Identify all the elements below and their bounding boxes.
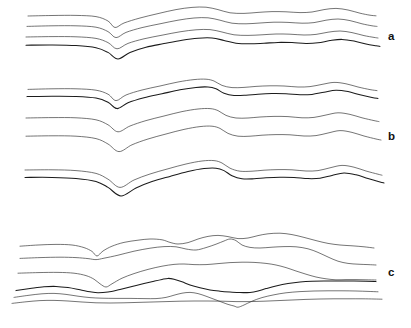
- panel-label-b: b: [388, 131, 395, 143]
- horizon-line-c-2: [20, 239, 376, 265]
- horizon-line-b-5: [25, 160, 382, 187]
- figure-root: a b c: [0, 0, 411, 328]
- horizon-line-c-1: [20, 233, 374, 256]
- panel-label-c: c: [388, 267, 394, 279]
- horizon-line-b-2: [27, 87, 378, 109]
- horizon-lines-group: [12, 7, 384, 307]
- horizon-line-b-4: [26, 126, 381, 152]
- horizon-line-c-3: [18, 262, 376, 287]
- horizon-line-c-6: [12, 299, 382, 304]
- panel-label-a: a: [388, 31, 394, 43]
- horizon-line-b-6: [25, 168, 384, 196]
- fold-cross-section-svg: [0, 0, 411, 328]
- horizon-line-a-2: [27, 18, 377, 38]
- horizon-line-b-3: [26, 108, 379, 131]
- horizon-line-a-4: [26, 38, 380, 59]
- horizon-line-b-1: [28, 79, 377, 101]
